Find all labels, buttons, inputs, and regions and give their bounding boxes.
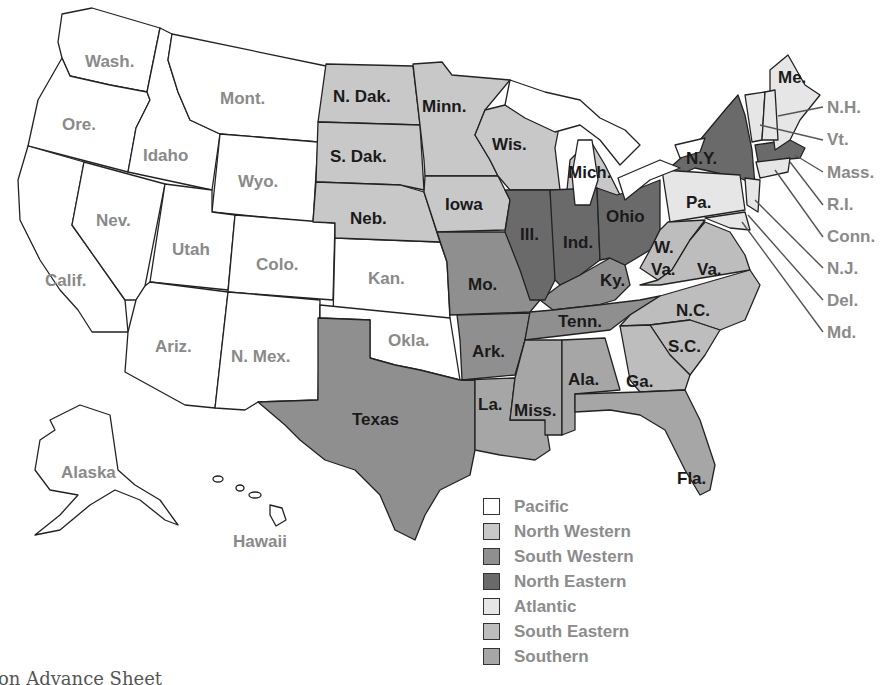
state-hawaii bbox=[213, 476, 286, 526]
legend-swatch bbox=[483, 548, 500, 565]
legend-label: South Eastern bbox=[514, 622, 629, 642]
state-nh bbox=[762, 90, 778, 140]
legend-label: North Eastern bbox=[514, 572, 626, 592]
map-legend: Pacific North Western South Western Nort… bbox=[483, 494, 634, 669]
label-ny: N.Y. bbox=[686, 149, 717, 168]
label-sc: S.C. bbox=[668, 337, 701, 356]
label-pa: Pa. bbox=[686, 193, 712, 212]
label-colo: Colo. bbox=[256, 255, 299, 274]
label-calif: Calif. bbox=[45, 271, 87, 290]
label-mont: Mont. bbox=[220, 89, 265, 108]
legend-label: Atlantic bbox=[514, 597, 576, 617]
label-okla: Okla. bbox=[388, 331, 430, 350]
label-iowa: Iowa bbox=[445, 195, 483, 214]
label-wis: Wis. bbox=[492, 135, 527, 154]
label-mich: Mich. bbox=[568, 163, 611, 182]
us-map: N. Dak. Minn. S. Dak. Wis. Mich. Neb. Io… bbox=[0, 0, 884, 685]
footer-caption: on Advance Sheet bbox=[0, 668, 162, 685]
label-va: Va. bbox=[697, 260, 722, 279]
label-del: Del. bbox=[827, 291, 858, 310]
label-ga: Ga. bbox=[626, 372, 653, 391]
label-nj: N.J. bbox=[827, 259, 858, 278]
label-minn: Minn. bbox=[422, 97, 466, 116]
label-kan: Kan. bbox=[368, 269, 405, 288]
legend-swatch bbox=[483, 498, 500, 515]
legend-item-southern: Southern bbox=[483, 644, 634, 669]
legend-item-north-western: North Western bbox=[483, 519, 634, 544]
label-wva-1: W. bbox=[654, 238, 674, 257]
legend-label: South Western bbox=[514, 547, 634, 567]
label-wyo: Wyo. bbox=[238, 172, 278, 191]
label-ark: Ark. bbox=[472, 342, 505, 361]
legend-label: Southern bbox=[514, 647, 589, 667]
label-fla: Fla. bbox=[677, 469, 706, 488]
legend-swatch bbox=[483, 598, 500, 615]
label-nc: N.C. bbox=[676, 301, 710, 320]
label-conn: Conn. bbox=[827, 227, 875, 246]
label-la: La. bbox=[478, 395, 503, 414]
label-mass: Mass. bbox=[827, 163, 874, 182]
label-ariz: Ariz. bbox=[155, 337, 192, 356]
label-ala: Ala. bbox=[568, 370, 599, 389]
label-nh: N.H. bbox=[827, 98, 861, 117]
legend-swatch bbox=[483, 623, 500, 640]
label-alaska: Alaska bbox=[61, 463, 116, 482]
label-vt: Vt. bbox=[827, 130, 849, 149]
label-ndak: N. Dak. bbox=[333, 87, 391, 106]
label-me: Me. bbox=[778, 68, 806, 87]
label-nmex: N. Mex. bbox=[231, 347, 291, 366]
label-mo: Mo. bbox=[468, 275, 497, 294]
legend-item-south-western: South Western bbox=[483, 544, 634, 569]
label-miss: Miss. bbox=[514, 401, 557, 420]
legend-item-atlantic: Atlantic bbox=[483, 594, 634, 619]
label-idaho: Idaho bbox=[143, 146, 188, 165]
label-nev: Nev. bbox=[96, 211, 131, 230]
label-texas: Texas bbox=[352, 410, 399, 429]
label-ill: Ill. bbox=[520, 225, 539, 244]
label-ky: Ky. bbox=[600, 271, 625, 290]
legend-label: Pacific bbox=[514, 497, 569, 517]
label-wash: Wash. bbox=[85, 52, 134, 71]
state-nj bbox=[745, 178, 760, 212]
label-ind: Ind. bbox=[563, 233, 593, 252]
legend-item-south-eastern: South Eastern bbox=[483, 619, 634, 644]
label-tenn: Tenn. bbox=[558, 312, 602, 331]
label-hawaii: Hawaii bbox=[233, 532, 287, 551]
legend-swatch bbox=[483, 523, 500, 540]
state-conn bbox=[756, 158, 790, 178]
label-sdak: S. Dak. bbox=[330, 147, 387, 166]
label-neb: Neb. bbox=[350, 209, 387, 228]
legend-item-north-eastern: North Eastern bbox=[483, 569, 634, 594]
legend-swatch bbox=[483, 648, 500, 665]
legend-item-pacific: Pacific bbox=[483, 494, 634, 519]
legend-label: North Western bbox=[514, 522, 631, 542]
label-ohio: Ohio bbox=[606, 207, 645, 226]
label-utah: Utah bbox=[172, 240, 210, 259]
label-ri: R.I. bbox=[827, 195, 853, 214]
label-ore: Ore. bbox=[62, 115, 96, 134]
legend-swatch bbox=[483, 573, 500, 590]
label-wva-2: Va. bbox=[651, 260, 676, 279]
label-md: Md. bbox=[827, 323, 856, 342]
